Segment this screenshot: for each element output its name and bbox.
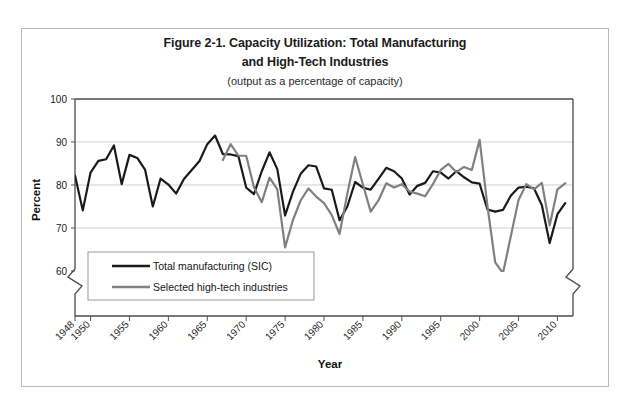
x-axis-ticks-group: 1948195019551960196519701975198019851990… [53,316,559,342]
y-tick-label: 100 [50,94,67,105]
x-tick-label: 1980 [302,318,326,342]
x-axis-title: Year [318,358,343,370]
x-tick-label: 1985 [341,318,365,342]
y-axis-title: Percent [30,179,42,221]
legend-group: Total manufacturing (SIC)Selected high-t… [88,252,314,300]
series-line-total-manufacturing [75,136,565,244]
x-tick-label: 1960 [146,318,170,342]
x-tick-label: 1950 [68,318,92,342]
y-tick-label: 60 [56,266,68,277]
x-tick-label: 2000 [458,318,482,342]
x-tick-label: 1995 [419,318,443,342]
y-axis-ticks-group: 60708090100 [50,94,75,277]
figure-container: Figure 2-1. Capacity Utilization: Total … [0,0,631,418]
gridlines-group [75,142,573,228]
x-tick-label: 1975 [263,318,287,342]
x-tick-label: 1970 [224,318,248,342]
x-tick-label: 1965 [185,318,209,342]
x-tick-label: 1955 [107,318,131,342]
legend-label: Selected high-tech industries [153,281,288,293]
x-tick-label: 2010 [535,318,559,342]
x-tick-label: 2005 [496,318,520,342]
x-tick-label: 1990 [380,318,404,342]
y-tick-label: 70 [56,223,68,234]
y-tick-label: 80 [56,180,68,191]
y-tick-label: 90 [56,137,68,148]
chart-plot: 60708090100 1948195019551960196519701975… [0,0,631,418]
legend-label: Total manufacturing (SIC) [153,260,272,272]
